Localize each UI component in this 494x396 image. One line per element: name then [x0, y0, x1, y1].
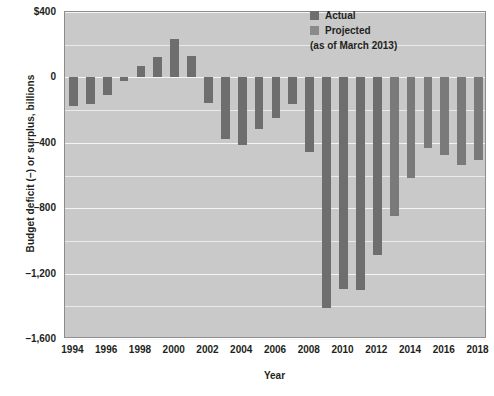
legend-label-actual: Actual — [325, 8, 356, 23]
legend-note-projected: (as of March 2013) — [310, 38, 397, 53]
legend-swatch-actual-icon — [310, 11, 319, 20]
x-axis-title: Year — [62, 370, 487, 381]
legend-swatch-projected-icon — [310, 26, 319, 35]
x-tick-label: 2006 — [264, 344, 286, 355]
x-tick-label: 2018 — [466, 344, 488, 355]
x-tick-label: 2012 — [365, 344, 387, 355]
x-tick-label: 2010 — [331, 344, 353, 355]
x-tick-label: 1994 — [61, 344, 83, 355]
legend: Actual Projected (as of March 2013) — [310, 8, 397, 53]
legend-note-row: (as of March 2013) — [310, 38, 397, 53]
legend-label-projected: Projected — [325, 23, 371, 38]
x-tick-label: 2016 — [433, 344, 455, 355]
x-tick-label: 2008 — [298, 344, 320, 355]
x-axis-tick-labels: 1994199619982000200220042006200820102012… — [0, 0, 494, 396]
legend-item-actual: Actual — [310, 8, 397, 23]
budget-deficit-chart: Budget deficit (–) or surplus, billions … — [0, 0, 494, 396]
x-tick-label: 2004 — [230, 344, 252, 355]
x-tick-label: 1996 — [95, 344, 117, 355]
x-tick-label: 1998 — [129, 344, 151, 355]
x-tick-label: 2002 — [196, 344, 218, 355]
x-tick-label: 2000 — [163, 344, 185, 355]
legend-item-projected: Projected — [310, 23, 397, 38]
x-tick-label: 2014 — [399, 344, 421, 355]
